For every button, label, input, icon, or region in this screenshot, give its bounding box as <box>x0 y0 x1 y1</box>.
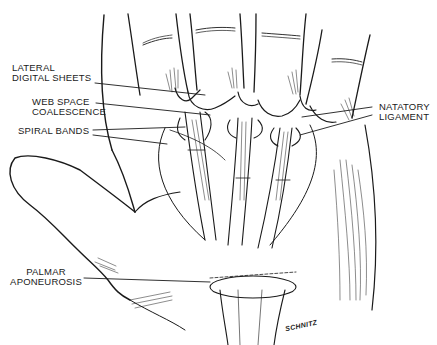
label-palmar-aponeurosis: PALMAR APONEUROSIS <box>10 267 82 287</box>
label-natatory-ligament: NATATORY LIGAMENT <box>379 102 430 122</box>
hand-illustration <box>0 0 437 345</box>
leader-lines <box>84 83 372 282</box>
central-tendons <box>158 112 316 248</box>
label-line: COALESCENCE <box>32 107 106 117</box>
wrist-aponeurosis <box>210 272 296 345</box>
anatomy-diagram: LATERAL DIGITAL SHEETS WEB SPACE COALESC… <box>0 0 437 345</box>
label-line: APONEUROSIS <box>10 277 82 287</box>
label-spiral-bands: SPIRAL BANDS <box>18 126 89 136</box>
web-space-bands <box>166 68 354 122</box>
label-line: SPIRAL BANDS <box>18 126 89 136</box>
label-line: LIGAMENT <box>379 112 430 122</box>
fingers <box>128 14 370 118</box>
label-line: DIGITAL SHEETS <box>12 73 91 83</box>
label-web-space-coalescence: WEB SPACE COALESCENCE <box>32 97 106 117</box>
label-lateral-digital-sheets: LATERAL DIGITAL SHEETS <box>12 63 91 83</box>
